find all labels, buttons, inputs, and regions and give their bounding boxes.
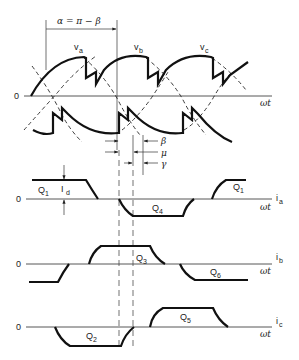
waveform-diagram: α = π − β 0 ωt v a v b v c [0, 0, 299, 360]
ib-left-tail [29, 264, 69, 282]
beta-label: β [160, 136, 166, 146]
svg-text:3: 3 [143, 258, 147, 265]
angle-markers: β μ γ [105, 135, 167, 175]
svg-text:1: 1 [240, 187, 244, 194]
svg-text:Q: Q [136, 253, 143, 263]
svg-text:5: 5 [187, 317, 191, 324]
phase-label-vb: v b [134, 42, 143, 54]
svg-text:Q: Q [210, 267, 217, 277]
svg-text:a: a [79, 47, 83, 54]
dashed-wave-2 [84, 58, 140, 135]
svg-text:2: 2 [93, 336, 97, 343]
current-panel-ic: 0 i c ωt Q 2 Q 5 [16, 308, 283, 346]
svg-text:Q: Q [233, 182, 240, 192]
id-sub: d [66, 189, 70, 196]
svg-text:6: 6 [217, 272, 221, 279]
ia-signal-label: i [276, 193, 278, 203]
dashed-wave-4 [212, 58, 246, 90]
ic-axis-label: ωt [260, 329, 271, 339]
current-panel-ia: 0 i a ωt I d Q 1 Q 4 Q 1 [16, 165, 283, 216]
alpha-label: α = π − β [57, 16, 101, 26]
svg-text:Q: Q [180, 312, 187, 322]
ib-q3-pulse [89, 246, 165, 264]
voltage-panel: 0 ωt v a v b v c [14, 42, 272, 142]
dashed-wave-3 [146, 58, 206, 135]
svg-text:Q: Q [152, 203, 159, 213]
current-panel-ib: 0 i b ωt Q 3 Q 6 [16, 246, 283, 282]
ib-zero-label: 0 [16, 259, 21, 269]
ic-signal-label: i [276, 316, 278, 326]
gamma-label: γ [161, 159, 167, 169]
ib-signal-label: i [276, 252, 278, 262]
svg-text:Q: Q [86, 331, 93, 341]
ib-axis-label: ωt [260, 266, 271, 276]
alpha-annotation: α = π − β [46, 16, 117, 150]
ib-signal-sub: b [279, 257, 283, 264]
ia-axis-label: ωt [260, 202, 271, 212]
id-label: I [61, 184, 64, 194]
svg-text:c: c [205, 47, 209, 54]
svg-text:b: b [139, 47, 143, 54]
mu-label: μ [161, 148, 167, 158]
upper-output-waveform [31, 56, 248, 96]
svg-text:Q: Q [38, 185, 45, 195]
svg-text:1: 1 [45, 190, 49, 197]
phase-label-vc: v c [200, 42, 209, 54]
dashed-wave-1 [32, 66, 82, 142]
ia-signal-sub: a [279, 198, 283, 205]
phase-label-va: v a [74, 42, 83, 54]
svg-text:4: 4 [159, 208, 163, 215]
ic-zero-label: 0 [16, 322, 21, 332]
voltage-zero-label: 0 [14, 91, 19, 101]
lower-output-waveform [33, 108, 232, 142]
ic-signal-sub: c [279, 321, 283, 328]
ia-zero-label: 0 [16, 194, 21, 204]
voltage-axis-label: ωt [260, 98, 271, 108]
